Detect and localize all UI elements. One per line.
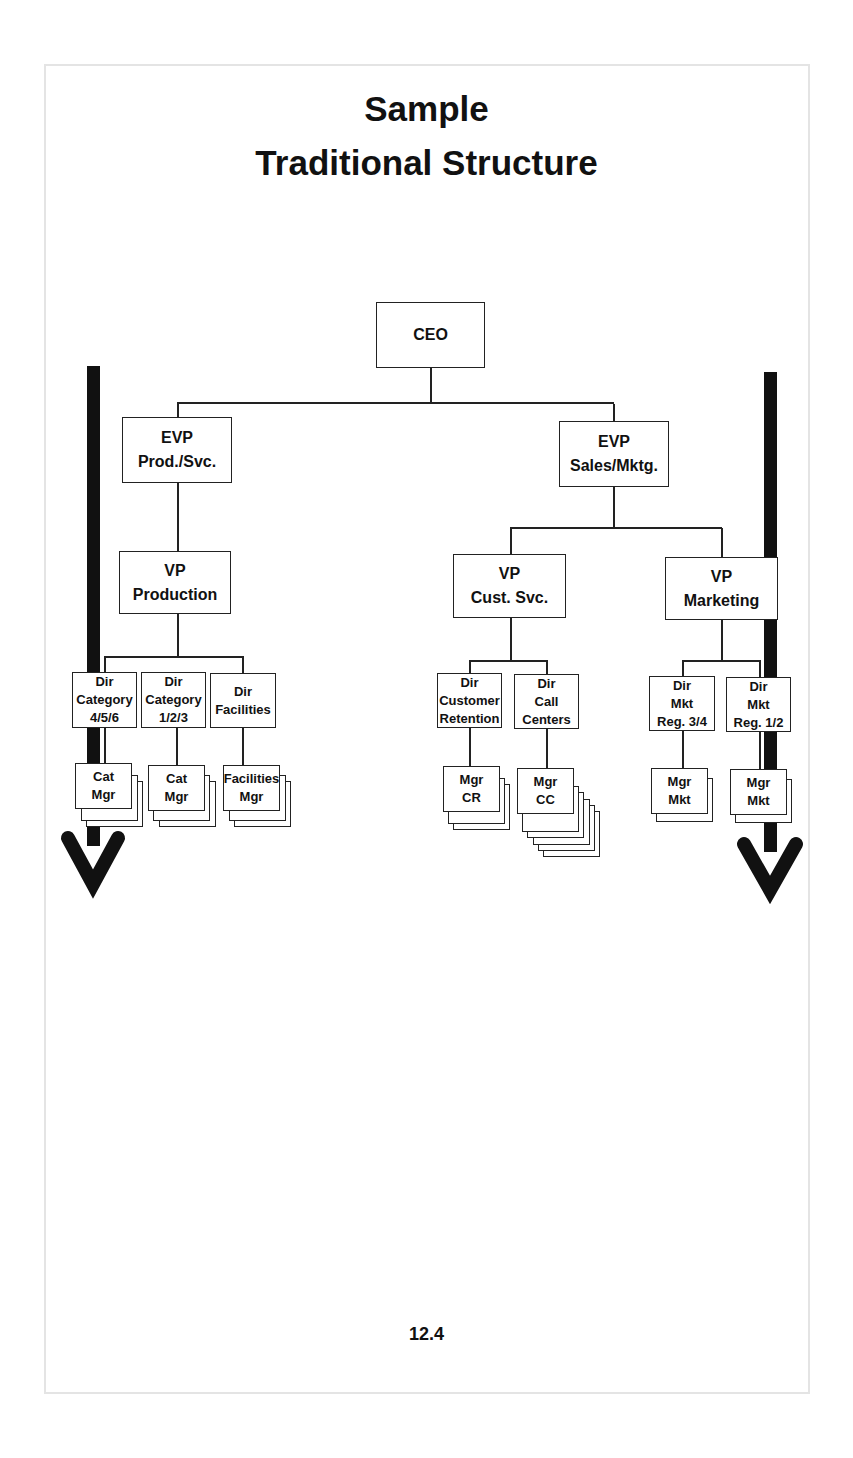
left-arrow-head-icon: [62, 830, 126, 896]
connector: [469, 660, 471, 674]
mgr-label: CC: [536, 791, 555, 809]
connector: [721, 528, 723, 558]
dir-category-123-box: Dir Category 1/2/3: [141, 672, 206, 728]
connector: [104, 656, 243, 658]
evp-prod-svc-box: EVP Prod./Svc.: [122, 417, 232, 483]
vp-cust-svc-box: VP Cust. Svc.: [453, 554, 566, 618]
mgr-mkt-1-box: Mgr Mkt: [651, 768, 708, 814]
ceo-box: CEO: [376, 302, 485, 368]
mgr-label: Cat: [93, 768, 114, 786]
page-number: 12.4: [0, 1324, 853, 1345]
connector: [721, 619, 723, 661]
dir-label: Dir: [673, 677, 691, 695]
connector: [546, 729, 548, 769]
right-arrow-head-icon: [738, 836, 802, 902]
dir-label: Mkt: [671, 695, 693, 713]
connector: [510, 617, 512, 661]
evp-sales-line2: Sales/Mktg.: [570, 454, 658, 478]
mgr-label: Mkt: [668, 791, 690, 809]
dir-label: Centers: [522, 711, 570, 729]
ceo-label: CEO: [413, 323, 448, 347]
connector: [430, 367, 432, 403]
dir-label: 1/2/3: [159, 709, 188, 727]
evp-sales-line1: EVP: [598, 430, 630, 454]
mgr-cc-box: Mgr CC: [517, 768, 574, 814]
dir-label: Dir: [164, 673, 182, 691]
vp-marketing-line2: Marketing: [684, 589, 760, 613]
mgr-label: Facilities: [224, 770, 280, 788]
vp-marketing-box: VP Marketing: [665, 557, 778, 620]
connector: [469, 727, 471, 767]
dir-label: Dir: [749, 678, 767, 696]
connector: [104, 656, 106, 672]
mgr-label: Mgr: [668, 773, 692, 791]
connector: [177, 613, 179, 657]
vp-marketing-line1: VP: [711, 565, 732, 589]
vp-production-line2: Production: [133, 583, 217, 607]
vp-production-box: VP Production: [119, 551, 231, 614]
dir-mkt-reg-34-box: Dir Mkt Reg. 3/4: [649, 676, 715, 731]
connector: [177, 402, 614, 404]
dir-label: Dir: [234, 683, 252, 701]
dir-label: Call: [535, 693, 559, 711]
mgr-label: Mgr: [460, 771, 484, 789]
dir-category-456-box: Dir Category 4/5/6: [72, 672, 137, 728]
dir-call-centers-box: Dir Call Centers: [514, 674, 579, 729]
connector: [759, 731, 761, 771]
evp-sales-mktg-box: EVP Sales/Mktg.: [559, 421, 669, 487]
connector: [510, 527, 512, 555]
dir-label: Mkt: [747, 696, 769, 714]
connector: [510, 527, 722, 529]
dir-label: Category: [145, 691, 201, 709]
mgr-cr-box: Mgr CR: [443, 766, 500, 812]
mgr-label: Cat: [166, 770, 187, 788]
vp-production-line1: VP: [164, 559, 185, 583]
evp-prod-line2: Prod./Svc.: [138, 450, 216, 474]
mgr-label: Mgr: [165, 788, 189, 806]
dir-label: Dir: [460, 674, 478, 692]
dir-label: Reg. 1/2: [734, 714, 784, 732]
vp-cust-svc-line2: Cust. Svc.: [471, 586, 548, 610]
connector: [177, 482, 179, 552]
evp-prod-line1: EVP: [161, 426, 193, 450]
dir-label: Reg. 3/4: [657, 713, 707, 731]
connector: [759, 660, 761, 678]
connector: [682, 730, 684, 770]
mgr-label: Mgr: [240, 788, 264, 806]
connector: [177, 402, 179, 418]
facilities-mgr-box: Facilities Mgr: [223, 765, 280, 811]
dir-label: 4/5/6: [90, 709, 119, 727]
mgr-label: Mgr: [534, 773, 558, 791]
connector: [176, 727, 178, 767]
connector: [613, 404, 615, 422]
dir-label: Facilities: [215, 701, 271, 719]
dir-customer-retention-box: Dir Customer Retention: [437, 673, 502, 728]
dir-label: Dir: [537, 675, 555, 693]
mgr-label: CR: [462, 789, 481, 807]
dir-label: Retention: [440, 710, 500, 728]
dir-facilities-box: Dir Facilities: [210, 673, 276, 728]
mgr-mkt-2-box: Mgr Mkt: [730, 769, 787, 815]
cat-mgr-1-box: Cat Mgr: [75, 763, 132, 809]
connector: [104, 727, 106, 765]
title-line-2: Traditional Structure: [0, 136, 853, 190]
dir-label: Customer: [439, 692, 500, 710]
connector: [242, 727, 244, 767]
connector: [242, 656, 244, 674]
dir-label: Dir: [95, 673, 113, 691]
connector: [469, 660, 547, 662]
connector: [613, 486, 615, 528]
dir-label: Category: [76, 691, 132, 709]
dir-mkt-reg-12-box: Dir Mkt Reg. 1/2: [726, 677, 791, 732]
vp-cust-svc-line1: VP: [499, 562, 520, 586]
cat-mgr-2-box: Cat Mgr: [148, 765, 205, 811]
connector: [682, 660, 760, 662]
mgr-label: Mgr: [747, 774, 771, 792]
mgr-label: Mgr: [92, 786, 116, 804]
mgr-label: Mkt: [747, 792, 769, 810]
title-line-1: Sample: [0, 82, 853, 136]
